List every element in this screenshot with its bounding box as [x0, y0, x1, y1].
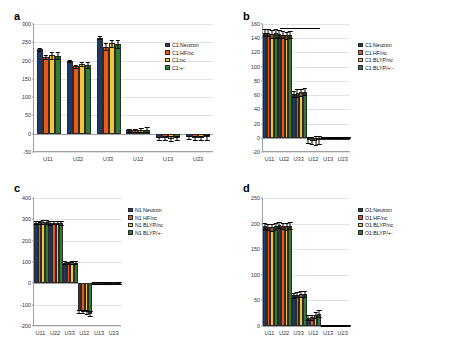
y-tick-label: 400 — [22, 195, 31, 201]
y-tick-label: 250 — [251, 195, 260, 201]
panel-letter-d: d — [243, 182, 250, 194]
error-bar-cap — [127, 132, 132, 133]
error-bar-cap — [38, 48, 43, 49]
y-tick-label: 200 — [251, 221, 260, 227]
error-bar-cap — [145, 132, 150, 133]
bar-set — [336, 24, 351, 151]
legend-item[interactable]: N1 Neutron — [128, 207, 163, 213]
error-bar-cap — [133, 129, 138, 130]
legend-swatch-icon — [358, 215, 363, 220]
y-tick-label: 120 — [251, 49, 260, 55]
legend-item[interactable]: O1:HF/nc — [358, 215, 393, 221]
bar-group-U11 — [34, 198, 49, 325]
y-tick-label: 160 — [251, 21, 260, 27]
legend-label: C1:nc — [172, 57, 186, 63]
error-bar-cap — [205, 140, 210, 141]
y-tick-label: 50 — [25, 112, 31, 118]
bar-group-U22 — [49, 198, 64, 325]
x-tick-label-U11: U11 — [33, 330, 48, 336]
plot-area-b: -20020406080100120140160 — [262, 24, 350, 152]
y-tick-label: 20 — [254, 121, 260, 127]
legend-swatch-icon — [128, 223, 133, 228]
legend-item[interactable]: C1:BLYP/nc — [358, 57, 394, 63]
legend-item[interactable]: O1:BLYP/+- — [358, 230, 393, 236]
y-tick-label: -50 — [23, 149, 31, 155]
error-bar-cap — [67, 62, 72, 63]
legend-item[interactable]: C1:BLYP/+ - — [358, 65, 394, 71]
gridline — [263, 152, 350, 153]
bar-slot — [144, 24, 150, 151]
error-bar — [319, 136, 320, 145]
error-bar-cap — [115, 40, 120, 41]
legend-d: O1:NeutronO1:HF/ncO1:BLYP/ncO1:BLYP/+- — [358, 207, 393, 237]
legend-label: O1:Neutron — [365, 207, 392, 213]
x-tick-label-U22: U22 — [63, 156, 93, 162]
bar-set — [321, 198, 336, 325]
y-tick-label: 100 — [22, 259, 31, 265]
bar-group-U33 — [94, 24, 124, 151]
error-bar — [301, 89, 302, 96]
x-tick-label-U33: U33 — [93, 156, 123, 162]
bar-slot — [346, 24, 350, 151]
error-bar — [319, 310, 320, 317]
legend-item[interactable]: C1:HF/nc — [358, 50, 394, 56]
legend-swatch-icon — [165, 50, 170, 55]
bar-set — [92, 198, 107, 325]
error-bar-cap — [97, 36, 102, 37]
error-bar — [315, 136, 316, 145]
bar-set — [107, 198, 122, 325]
error-bar-cap — [175, 140, 180, 141]
legend-item[interactable]: N1 BLYP/+- — [128, 230, 163, 236]
legend-item[interactable]: C1:+- — [165, 65, 199, 71]
bar-set — [34, 24, 64, 151]
x-tick-label-U12: U12 — [306, 330, 321, 336]
error-bar — [286, 32, 287, 39]
legend-item[interactable]: O1:Neutron — [358, 207, 393, 213]
x-tick-label-U23: U23 — [335, 156, 350, 162]
legend-label: N1 BLYP/nc — [135, 222, 163, 228]
error-bar-cap — [38, 51, 43, 52]
bar-set — [123, 24, 153, 151]
panel-letter-a: a — [14, 10, 20, 22]
legend-item[interactable]: C1:nc — [165, 57, 199, 63]
legend-label: O1:HF/nc — [365, 215, 387, 221]
legend-item[interactable]: C1:HF/nc — [165, 50, 199, 56]
error-bar-cap — [127, 129, 132, 130]
error-bar-cap — [50, 59, 55, 60]
bar-set — [63, 198, 78, 325]
error-bar-cap — [73, 68, 78, 69]
bar-groups — [34, 198, 121, 325]
legend-item[interactable]: C1:Neutron — [165, 42, 199, 48]
legend-label: N1 BLYP/+- — [135, 230, 162, 236]
bar-group-U22 — [64, 24, 94, 151]
error-bar-cap — [157, 137, 162, 138]
bar-group-U11 — [34, 24, 64, 151]
legend-item[interactable]: N1 BLYP/nc — [128, 222, 163, 228]
legend-label: C1:HF/nc — [365, 50, 387, 56]
bar-group-U23 — [107, 198, 122, 325]
legend-swatch-icon — [358, 43, 363, 48]
y-tick-label: -200 — [20, 323, 31, 329]
legend-item[interactable]: C1:Neutron — [358, 42, 394, 48]
legend-item[interactable]: N1 HF/nc — [128, 215, 163, 221]
error-bar-cap — [163, 136, 168, 137]
y-tick-label: 250 — [22, 39, 31, 45]
error-bar-cap — [169, 136, 174, 137]
x-tick-label-U11: U11 — [262, 156, 277, 162]
gridline — [34, 326, 121, 327]
error-bar-cap — [73, 65, 78, 66]
error-bar-cap — [193, 136, 198, 137]
legend-swatch-icon — [165, 43, 170, 48]
error-bar-cap — [85, 68, 90, 69]
legend-a: C1:NeutronC1:HF/ncC1:ncC1:+- — [165, 42, 199, 72]
bar-set — [292, 198, 307, 325]
bar-slot — [115, 24, 121, 151]
bar-set — [292, 24, 307, 151]
legend-swatch-icon — [128, 208, 133, 213]
legend-item[interactable]: O1:BLYP/nc — [358, 222, 393, 228]
bar-set — [321, 24, 336, 151]
x-tick-label-U22: U22 — [277, 330, 292, 336]
y-tick-label: 60 — [254, 92, 260, 98]
y-tick-label: 0 — [257, 135, 260, 141]
legend-label: N1 HF/nc — [135, 215, 157, 221]
